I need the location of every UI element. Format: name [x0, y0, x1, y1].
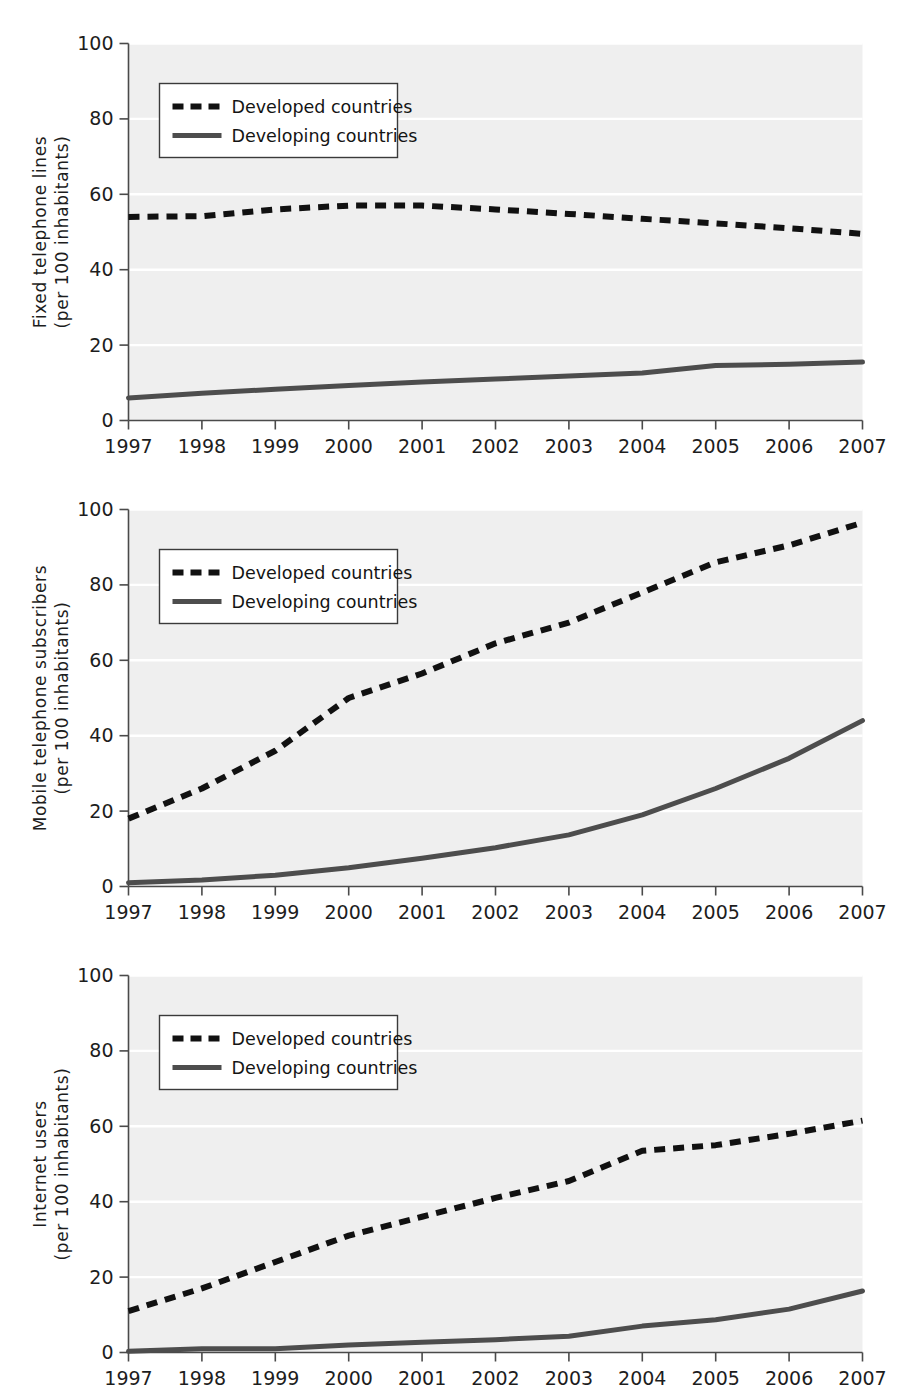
y-tick-label: 0 — [101, 875, 113, 897]
y-axis-ticks: 020406080100 — [77, 498, 128, 897]
x-tick-label: 2007 — [838, 901, 886, 923]
x-tick-label: 1997 — [104, 1367, 152, 1389]
chart-svg: 0204060801001997199819992000200120022003… — [0, 0, 916, 466]
x-tick-label: 2001 — [398, 435, 446, 457]
x-tick-label: 1997 — [104, 901, 152, 923]
legend-label: Developed countries — [232, 563, 413, 583]
y-tick-label: 20 — [89, 800, 113, 822]
legend-label: Developing countries — [232, 1058, 418, 1078]
legend: Developed countriesDeveloping countries — [160, 550, 418, 624]
x-tick-label: 2000 — [325, 435, 373, 457]
y-axis-label-line: Fixed telephone lines — [30, 136, 50, 329]
y-tick-label: 0 — [101, 409, 113, 431]
three-panel-line-chart-figure: 0204060801001997199819992000200120022003… — [0, 0, 916, 1398]
y-axis-label-line: Mobile telephone subscribers — [30, 565, 50, 831]
y-axis-label-line: (per 100 inhabitants) — [52, 602, 72, 795]
x-tick-label: 2000 — [325, 1367, 373, 1389]
x-tick-label: 2002 — [471, 1367, 519, 1389]
x-tick-label: 2003 — [545, 435, 593, 457]
chart-panel-mobile-telephone-subscribers: 0204060801001997199819992000200120022003… — [0, 466, 916, 932]
y-tick-label: 40 — [89, 258, 113, 280]
legend-box — [160, 1016, 398, 1090]
x-tick-label: 2003 — [545, 1367, 593, 1389]
x-tick-label: 1998 — [178, 901, 226, 923]
y-tick-label: 20 — [89, 1266, 113, 1288]
x-tick-label: 1998 — [178, 435, 226, 457]
y-axis-label-line: Internet users — [30, 1100, 50, 1227]
x-tick-label: 2006 — [765, 1367, 813, 1389]
x-tick-label: 2006 — [765, 435, 813, 457]
legend-label: Developed countries — [232, 1029, 413, 1049]
legend-box — [160, 550, 398, 624]
y-tick-label: 40 — [89, 1190, 113, 1212]
y-axis-ticks: 020406080100 — [77, 964, 128, 1363]
y-axis-label-line: (per 100 inhabitants) — [52, 1068, 72, 1261]
y-axis-label-line: (per 100 inhabitants) — [52, 136, 72, 329]
y-tick-label: 60 — [89, 183, 113, 205]
y-tick-label: 40 — [89, 724, 113, 746]
x-tick-label: 2004 — [618, 1367, 666, 1389]
legend-label: Developing countries — [232, 592, 418, 612]
y-tick-label: 80 — [89, 107, 113, 129]
chart-svg: 0204060801001997199819992000200120022003… — [0, 466, 916, 932]
y-axis-ticks: 020406080100 — [77, 32, 128, 431]
legend: Developed countriesDeveloping countries — [160, 84, 418, 158]
y-tick-label: 100 — [77, 498, 113, 520]
legend-label: Developing countries — [232, 126, 418, 146]
x-tick-label: 2004 — [618, 901, 666, 923]
x-tick-label: 2007 — [838, 435, 886, 457]
chart-panel-internet-users: 0204060801001997199819992000200120022003… — [0, 932, 916, 1398]
x-tick-label: 2006 — [765, 901, 813, 923]
legend-label: Developed countries — [232, 97, 413, 117]
y-tick-label: 60 — [89, 1115, 113, 1137]
x-tick-label: 2007 — [838, 1367, 886, 1389]
x-tick-label: 1999 — [251, 1367, 299, 1389]
x-tick-label: 2002 — [471, 435, 519, 457]
y-axis-label: Mobile telephone subscribers(per 100 inh… — [30, 565, 72, 831]
x-axis-ticks: 1997199819992000200120022003200420052006… — [104, 887, 886, 923]
x-tick-label: 2003 — [545, 901, 593, 923]
x-tick-label: 2005 — [692, 435, 740, 457]
x-tick-label: 2004 — [618, 435, 666, 457]
y-axis-label: Fixed telephone lines(per 100 inhabitant… — [30, 136, 72, 329]
chart-panel-fixed-telephone-lines: 0204060801001997199819992000200120022003… — [0, 0, 916, 466]
chart-svg: 0204060801001997199819992000200120022003… — [0, 932, 916, 1398]
y-tick-label: 100 — [77, 964, 113, 986]
y-tick-label: 60 — [89, 649, 113, 671]
x-axis-ticks: 1997199819992000200120022003200420052006… — [104, 421, 886, 457]
x-tick-label: 2005 — [692, 901, 740, 923]
y-tick-label: 80 — [89, 1039, 113, 1061]
x-tick-label: 1997 — [104, 435, 152, 457]
x-tick-label: 1998 — [178, 1367, 226, 1389]
y-tick-label: 20 — [89, 334, 113, 356]
x-tick-label: 2000 — [325, 901, 373, 923]
x-axis-ticks: 1997199819992000200120022003200420052006… — [104, 1353, 886, 1389]
x-tick-label: 2001 — [398, 1367, 446, 1389]
x-tick-label: 2001 — [398, 901, 446, 923]
y-tick-label: 100 — [77, 32, 113, 54]
legend: Developed countriesDeveloping countries — [160, 1016, 418, 1090]
x-tick-label: 1999 — [251, 435, 299, 457]
x-tick-label: 2005 — [692, 1367, 740, 1389]
x-tick-label: 2002 — [471, 901, 519, 923]
legend-box — [160, 84, 398, 158]
x-tick-label: 1999 — [251, 901, 299, 923]
y-tick-label: 0 — [101, 1341, 113, 1363]
y-tick-label: 80 — [89, 573, 113, 595]
y-axis-label: Internet users(per 100 inhabitants) — [30, 1068, 72, 1261]
